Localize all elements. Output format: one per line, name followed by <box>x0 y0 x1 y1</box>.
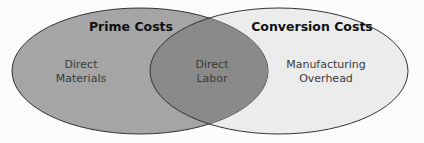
direct-materials-label: Direct Materials <box>56 58 106 86</box>
manufacturing-overhead-label: Manufacturing Overhead <box>286 58 366 86</box>
conversion-costs-title: Conversion Costs <box>251 19 373 34</box>
direct-labor-label: Direct Labor <box>196 58 229 86</box>
label-line: Direct <box>56 58 106 72</box>
label-line: Materials <box>56 72 106 86</box>
label-line: Labor <box>196 72 229 86</box>
label-line: Direct <box>196 58 229 72</box>
prime-costs-title: Prime Costs <box>89 19 173 34</box>
label-line: Manufacturing <box>286 58 366 72</box>
label-line: Overhead <box>286 72 366 86</box>
